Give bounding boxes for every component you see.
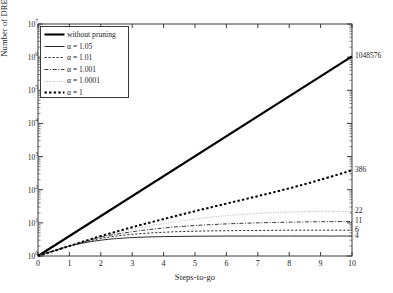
x-tick-label-5: 5 xyxy=(184,259,206,268)
legend-label-3: α = 1.01 xyxy=(67,54,92,62)
legend-key-icon-4 xyxy=(44,64,65,75)
legend-item-4: α = 1.001 xyxy=(44,64,125,76)
x-tick-label-6: 6 xyxy=(215,259,237,268)
x-tick-label-8: 8 xyxy=(278,259,300,268)
x-axis-title: Steps-to-go xyxy=(38,272,352,282)
legend-key-icon-1 xyxy=(44,29,65,40)
y-axis-title: Number of DRE solutions xyxy=(0,0,9,76)
y-tick-label-2: 102 xyxy=(28,184,38,195)
legend-key-icon-6 xyxy=(44,87,65,98)
legend: without pruningα = 1.05α = 1.01α = 1.001… xyxy=(40,26,129,98)
legend-key-icon-5 xyxy=(44,76,65,87)
series-line-5 xyxy=(38,211,352,256)
legend-label-4: α = 1.001 xyxy=(67,66,96,74)
legend-label-5: α = 1.0001 xyxy=(67,77,100,85)
x-tick-label-10: 10 xyxy=(341,259,363,268)
end-label-3: 6 xyxy=(355,225,359,234)
legend-item-6: α = 1 xyxy=(44,87,125,99)
y-tick-label-3: 103 xyxy=(28,151,38,162)
legend-item-5: α = 1.0001 xyxy=(44,75,125,87)
end-label-4: 11 xyxy=(355,216,362,225)
x-tick-label-4: 4 xyxy=(153,259,175,268)
x-tick-label-9: 9 xyxy=(310,259,332,268)
legend-label-2: α = 1.05 xyxy=(67,43,92,51)
x-tick-label-7: 7 xyxy=(247,259,269,268)
y-tick-label-1: 101 xyxy=(28,217,38,228)
legend-item-2: α = 1.05 xyxy=(44,41,125,53)
legend-item-3: α = 1.01 xyxy=(44,52,125,64)
x-tick-label-3: 3 xyxy=(121,259,143,268)
x-tick-label-1: 1 xyxy=(58,259,80,268)
x-tick-label-2: 2 xyxy=(90,259,112,268)
end-label-5: 22 xyxy=(355,206,363,215)
y-tick-label-6: 106 xyxy=(28,51,38,62)
y-tick-label-4: 104 xyxy=(28,117,38,128)
figure: Number of DRE solutions Steps-to-go 1001… xyxy=(0,0,393,293)
y-tick-label-5: 105 xyxy=(28,84,38,95)
end-label-6: 386 xyxy=(355,165,366,174)
y-tick-label-7: 107 xyxy=(28,18,38,29)
legend-label-6: α = 1 xyxy=(67,89,83,97)
legend-label-1: without pruning xyxy=(67,31,116,39)
legend-item-1: without pruning xyxy=(44,29,125,41)
legend-key-icon-2 xyxy=(44,41,65,52)
x-tick-label-0: 0 xyxy=(27,259,49,268)
end-label-1: 1048576 xyxy=(355,51,381,60)
legend-key-icon-3 xyxy=(44,52,65,63)
